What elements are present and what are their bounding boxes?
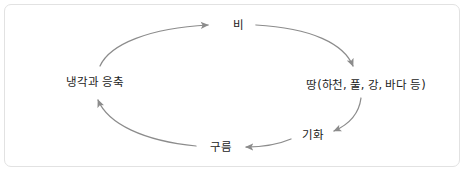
node-label-condensation: 냉각과 응축 (64, 76, 125, 89)
edge-evaporation-to-cloud (246, 139, 291, 147)
edge-condensation-to-rain (100, 25, 208, 66)
diagram-canvas: 비 땅(하천, 풀, 강, 바다 등) 기화 구름 냉각과 응축 (0, 0, 466, 180)
edge-cloud-to-condensation (98, 100, 196, 146)
node-label-rain: 비 (231, 19, 246, 32)
node-label-cloud: 구름 (208, 141, 234, 154)
edge-rain-to-ground (256, 25, 353, 66)
node-label-ground: 땅(하천, 풀, 강, 바다 등) (304, 79, 427, 92)
edge-ground-to-evaporation (334, 98, 361, 131)
node-label-evaporation: 기화 (300, 129, 326, 142)
